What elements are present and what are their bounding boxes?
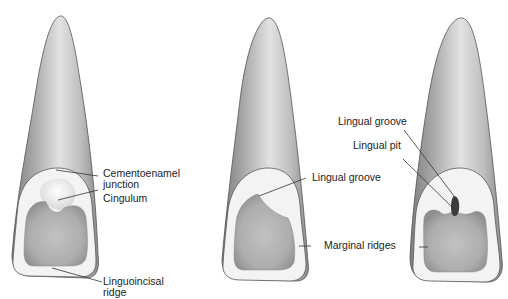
label-text: Marginal ridges [324,239,396,251]
tooth-3-lingual-fossa [424,210,488,272]
label-text: Lingual groove [312,171,381,183]
label-text: Cingulum [103,192,147,204]
label-linguoincisal-ridge: Linguoincisal ridge [103,276,164,298]
tooth-3 [410,18,502,282]
tooth-1 [12,16,99,278]
label-lingual-groove-tooth-2: Lingual groove [312,172,381,183]
label-text: Lingual groove [338,115,407,127]
label-lingual-pit: Lingual pit [353,140,401,151]
label-text: Lingual pit [353,139,401,151]
label-cingulum: Cingulum [103,193,147,204]
label-lingual-groove-tooth-3: Lingual groove [338,116,407,127]
tooth-diagram [0,0,508,299]
tooth-2 [222,18,309,281]
label-text: ridge [103,287,164,298]
label-marginal-ridges: Marginal ridges [324,240,396,251]
label-text: junction [103,179,180,190]
label-cementoenamel-junction: Cementoenamel junction [103,168,180,190]
